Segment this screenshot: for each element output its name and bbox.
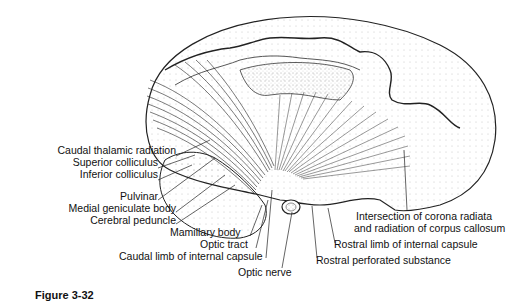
label-inferior-colliculus: Inferior colliculus (80, 168, 158, 180)
label-intersection-corona-radiata: Intersection of corona radiata (356, 210, 492, 222)
label-rostral-perforated-substance: Rostral perforated substance (316, 254, 451, 266)
label-cerebral-peduncle: Cerebral peduncle (90, 214, 176, 226)
label-rostral-limb-internal-capsule: Rostral limb of internal capsule (334, 238, 478, 250)
label-radiation-corpus-callosum: and radiation of corpus callosum (354, 222, 505, 234)
figure-caption: Figure 3-32 (35, 289, 94, 301)
label-pulvinar: Pulvinar (120, 190, 158, 202)
label-caudal-thalamic-radiation: Caudal thalamic radiation (58, 144, 176, 156)
label-superior-colliculus: Superior colliculus (73, 156, 158, 168)
label-mamillary-body: Mamillary body (170, 226, 241, 238)
label-caudal-limb-internal-capsule: Caudal limb of internal capsule (119, 250, 263, 262)
label-medial-geniculate-body: Medial geniculate body (69, 202, 176, 214)
label-optic-nerve: Optic nerve (238, 266, 292, 278)
label-optic-tract: Optic tract (200, 238, 248, 250)
